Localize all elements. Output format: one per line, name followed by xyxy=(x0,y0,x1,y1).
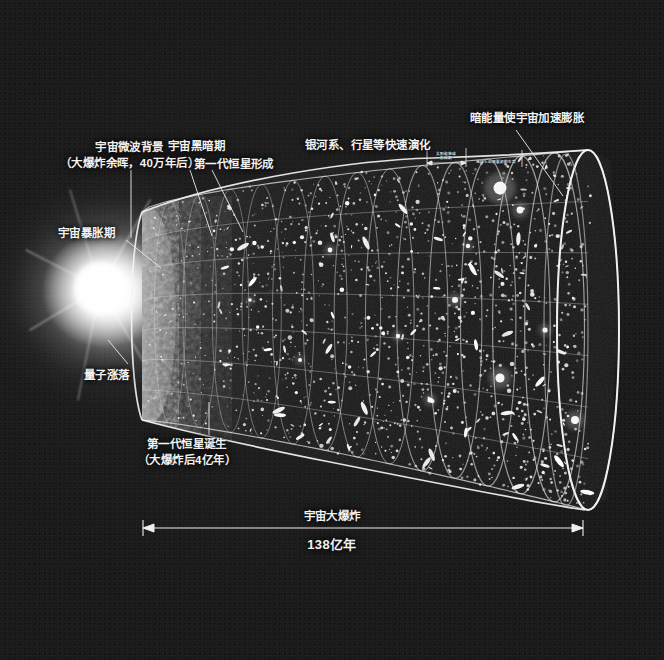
star xyxy=(550,371,552,373)
star xyxy=(290,223,292,225)
star xyxy=(365,172,367,174)
star xyxy=(510,243,512,245)
star xyxy=(473,393,476,396)
star xyxy=(146,363,147,364)
star xyxy=(179,314,181,316)
star xyxy=(188,362,189,363)
star xyxy=(587,443,589,445)
star xyxy=(581,331,584,334)
star xyxy=(318,280,319,281)
star xyxy=(578,279,580,281)
star xyxy=(404,238,406,240)
star xyxy=(389,245,390,246)
star xyxy=(566,448,569,451)
star xyxy=(573,335,575,337)
star xyxy=(229,387,230,388)
star xyxy=(290,346,291,347)
star xyxy=(459,468,461,470)
star xyxy=(534,258,536,260)
star xyxy=(275,426,277,428)
star xyxy=(582,463,584,465)
star xyxy=(388,316,391,319)
star xyxy=(411,206,413,208)
star xyxy=(326,321,328,323)
star xyxy=(410,222,413,225)
star xyxy=(284,228,286,230)
star xyxy=(407,367,410,370)
star xyxy=(445,181,448,184)
star xyxy=(567,313,570,316)
star xyxy=(284,187,285,188)
star xyxy=(314,412,316,414)
star xyxy=(217,271,218,272)
star xyxy=(390,191,392,193)
star xyxy=(410,322,412,324)
star xyxy=(301,402,302,403)
star xyxy=(525,464,527,466)
star xyxy=(172,308,174,310)
star xyxy=(558,334,561,337)
star xyxy=(521,422,524,425)
star xyxy=(214,291,216,293)
galaxy-core xyxy=(542,327,547,332)
star xyxy=(497,456,500,459)
star xyxy=(513,224,515,226)
star xyxy=(548,248,550,250)
star xyxy=(275,334,277,336)
star xyxy=(184,231,185,232)
star xyxy=(216,248,219,251)
star xyxy=(219,228,221,230)
star xyxy=(524,468,526,470)
star xyxy=(482,388,484,390)
star xyxy=(369,275,372,278)
star xyxy=(551,433,553,435)
star xyxy=(227,358,228,359)
star xyxy=(401,369,403,371)
star xyxy=(283,267,284,268)
star xyxy=(475,273,477,275)
star xyxy=(203,384,204,385)
star xyxy=(501,241,504,244)
star xyxy=(364,227,368,231)
star xyxy=(295,250,296,251)
star xyxy=(381,446,382,447)
star xyxy=(475,253,477,255)
star xyxy=(204,355,205,356)
star xyxy=(376,266,379,269)
star xyxy=(374,280,376,282)
star xyxy=(527,284,529,286)
star xyxy=(293,272,295,274)
star xyxy=(418,184,419,185)
star xyxy=(423,392,425,394)
star xyxy=(373,347,375,349)
star xyxy=(380,218,382,220)
star xyxy=(583,482,585,484)
star xyxy=(348,187,350,189)
star xyxy=(337,341,339,343)
star xyxy=(299,352,300,353)
star xyxy=(422,297,423,298)
star xyxy=(564,433,567,436)
star xyxy=(310,192,312,194)
star xyxy=(516,294,519,297)
star xyxy=(483,428,485,430)
star xyxy=(447,465,450,468)
star xyxy=(507,165,510,168)
star xyxy=(270,253,271,254)
star xyxy=(477,178,479,180)
star xyxy=(227,426,228,427)
star xyxy=(383,342,385,344)
star xyxy=(516,446,518,448)
star xyxy=(466,475,469,478)
star xyxy=(376,324,379,327)
star xyxy=(238,275,239,276)
star xyxy=(406,226,408,228)
star xyxy=(304,397,305,398)
star xyxy=(231,303,233,305)
star xyxy=(464,188,466,190)
star xyxy=(329,304,330,305)
star xyxy=(553,171,555,173)
star xyxy=(451,265,453,267)
star xyxy=(242,190,244,192)
star xyxy=(537,482,539,484)
